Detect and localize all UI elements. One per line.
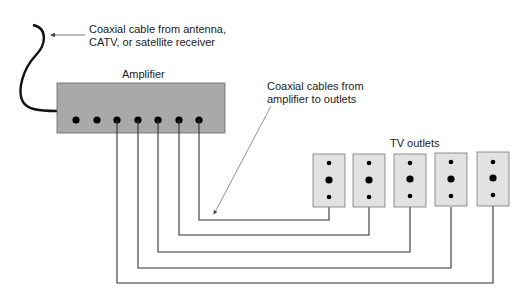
- tv-outlet-5: [477, 152, 509, 206]
- input-cable-label: Coaxial cable from antenna, CATV, or sat…: [89, 23, 226, 49]
- tv-outlet-3: [394, 154, 426, 207]
- output-cables-label-line2: amplifier to outlets: [267, 93, 364, 106]
- tv-outlets-label: TV outlets: [390, 137, 440, 150]
- amplifier-label: Amplifier: [122, 68, 165, 81]
- tv-outlet-2: [353, 154, 385, 207]
- tv-outlets: [313, 152, 509, 207]
- input-cable-label-line1: Coaxial cable from antenna,: [89, 23, 226, 36]
- output-cables-label-line1: Coaxial cables from: [267, 80, 364, 93]
- wiring-diagram: [0, 0, 527, 301]
- amplifier-box: [57, 83, 225, 133]
- tv-outlet-4: [435, 153, 467, 206]
- input-cable-label-line2: CATV, or satellite receiver: [89, 36, 226, 49]
- input-coax-cable: [21, 25, 57, 111]
- tv-outlet-1: [313, 154, 345, 207]
- output-cables-label: Coaxial cables from amplifier to outlets: [267, 80, 364, 106]
